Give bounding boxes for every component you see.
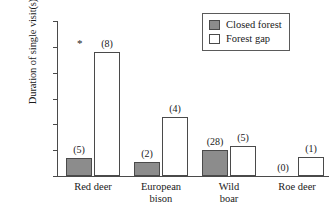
bar-red-deer-forest-gap: [94, 52, 120, 176]
bar-red-deer-closed-forest: [66, 158, 92, 176]
x-category-label-line: boar: [184, 193, 274, 205]
bar-roe-deer-forest-gap: [298, 157, 324, 176]
y-tick-mark: [53, 21, 57, 22]
bar-chart-figure: Duration of single visit(s) 020406080100…: [0, 0, 334, 220]
bar-wild-boar-closed-forest: [202, 150, 228, 176]
x-category-label: Roe deer: [252, 181, 334, 193]
legend-swatch-forest-gap: [209, 34, 220, 44]
x-category-label-line: Roe deer: [252, 181, 334, 193]
bar-value-label: (0): [264, 163, 302, 173]
y-tick-mark: [53, 47, 57, 48]
chart-legend: Closed forest Forest gap: [202, 13, 290, 51]
legend-item-closed-forest: Closed forest: [209, 18, 282, 32]
y-axis-line: [57, 21, 58, 176]
legend-item-forest-gap: Forest gap: [209, 32, 282, 46]
bar-value-label: (1): [292, 144, 330, 154]
y-tick-mark: [53, 150, 57, 151]
x-axis-line: [57, 176, 329, 177]
bar-european-bison-forest-gap: [162, 117, 188, 176]
bar-european-bison-closed-forest: [134, 162, 160, 176]
bar-value-label: (5): [60, 145, 98, 155]
y-tick-mark: [53, 124, 57, 125]
y-tick-mark: [53, 99, 57, 100]
bar-value-label: (5): [224, 133, 262, 143]
bar-value-label: (4): [156, 104, 194, 114]
bar-value-label: (2): [128, 149, 166, 159]
legend-label-forest-gap: Forest gap: [226, 34, 270, 45]
y-tick-mark: [53, 176, 57, 177]
significance-asterisk: *: [77, 38, 83, 49]
y-tick-mark: [53, 73, 57, 74]
legend-label-closed-forest: Closed forest: [226, 20, 282, 31]
bar-value-label: (8): [88, 39, 126, 49]
bar-wild-boar-forest-gap: [230, 146, 256, 176]
legend-swatch-closed-forest: [209, 20, 220, 30]
y-axis-label: Duration of single visit(s): [27, 0, 38, 132]
